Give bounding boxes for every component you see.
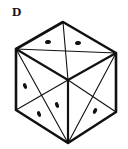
right-face-diagonal-2 <box>68 80 116 112</box>
cube-edge-left <box>16 49 68 80</box>
left-face-diagonal-1 <box>16 49 68 143</box>
left-face-dot <box>54 102 59 109</box>
cube-outline <box>16 22 116 143</box>
left-face-dot <box>36 111 41 118</box>
right-face-dot <box>92 108 98 115</box>
top-face-dot <box>75 41 82 46</box>
left-face-dot <box>22 83 27 90</box>
top-face-dot <box>45 40 52 45</box>
cube-diagram <box>0 0 128 149</box>
